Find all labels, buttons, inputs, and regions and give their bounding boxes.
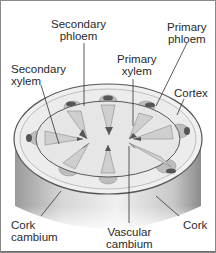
label-cork: Cork (183, 219, 207, 231)
label-cork-cambium: Cork cambium (11, 219, 58, 243)
label-secondary-phloem: Secondary phloem (51, 18, 106, 42)
label-primary-xylem: Primary xylem (117, 53, 157, 77)
label-primary-phloem: Primary phloem (167, 21, 207, 45)
stem-cross-section-diagram: Secondary phloem Primary phloem Secondar… (0, 0, 216, 253)
label-cortex: Cortex (174, 87, 208, 99)
label-secondary-xylem: Secondary xylem (11, 63, 66, 87)
label-vascular-cambium: Vascular cambium (106, 226, 153, 250)
